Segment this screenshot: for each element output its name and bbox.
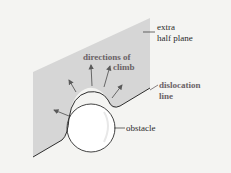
label-extra: extra bbox=[157, 22, 175, 32]
label-line: line bbox=[159, 91, 173, 101]
dislocation-diagram: extra half plane directions of climb dis… bbox=[0, 0, 231, 173]
leader-dislocation-line bbox=[150, 85, 158, 90]
label-directions-of: directions of bbox=[83, 52, 132, 62]
label-half-plane: half plane bbox=[157, 33, 193, 43]
label-dislocation: dislocation bbox=[159, 80, 201, 90]
label-climb: climb bbox=[113, 62, 135, 72]
label-obstacle: obstacle bbox=[126, 123, 156, 133]
